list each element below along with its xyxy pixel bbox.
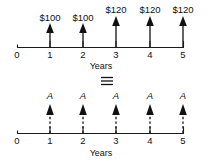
tick-label-bottom-4: 4	[147, 135, 152, 146]
series-label-year-5: A	[179, 90, 186, 101]
tick-label-bottom-1: 1	[47, 135, 52, 146]
equivalence-symbol	[101, 78, 113, 85]
tick-label-top-5: 5	[180, 49, 185, 60]
tick-label-bottom-2: 2	[80, 135, 85, 146]
axis-title-top: Years	[90, 61, 113, 71]
diagram-canvas: $100 $100 $120 $120 $120	[0, 0, 210, 167]
panel-actual-cash-flows: $100 $100 $120 $120 $120	[14, 4, 193, 71]
cash-flow-label-year-1: $100	[39, 12, 60, 23]
panel-equivalent-uniform-series: A A A A A	[14, 90, 186, 158]
tick-label-bottom-3: 3	[113, 135, 118, 146]
cash-flow-label-year-4: $120	[139, 4, 160, 15]
cash-flow-diagram: $100 $100 $120 $120 $120	[0, 0, 210, 167]
series-label-year-1: A	[46, 90, 53, 101]
tick-label-bottom-0: 0	[14, 135, 19, 146]
series-label-year-3: A	[112, 90, 119, 101]
tick-label-top-3: 3	[113, 49, 118, 60]
axis-title-bottom: Years	[90, 148, 113, 158]
tick-label-bottom-5: 5	[180, 135, 185, 146]
tick-label-top-4: 4	[147, 49, 152, 60]
cash-flow-label-year-3: $120	[105, 4, 126, 15]
tick-label-top-1: 1	[47, 49, 52, 60]
cash-flow-label-year-2: $100	[72, 12, 93, 23]
tick-label-top-0: 0	[14, 49, 19, 60]
series-label-year-2: A	[79, 90, 86, 101]
cash-flow-label-year-5: $120	[172, 4, 193, 15]
tick-label-top-2: 2	[80, 49, 85, 60]
series-label-year-4: A	[146, 90, 153, 101]
